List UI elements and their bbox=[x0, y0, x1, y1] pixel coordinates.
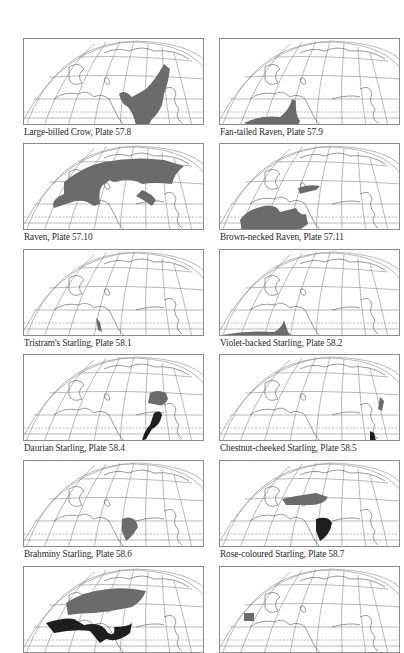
map-caption: Brown-necked Raven, Plate 57.11 bbox=[220, 232, 344, 242]
range-holarctic-eurasia bbox=[53, 158, 184, 208]
range-map bbox=[219, 354, 400, 441]
range-map bbox=[23, 354, 204, 441]
range-map bbox=[23, 566, 204, 653]
range-map bbox=[219, 249, 400, 336]
range-map bbox=[23, 460, 204, 547]
map-caption: Violet-backed Starling, Plate 58.2 bbox=[220, 338, 342, 348]
range-sub-saharan-africa bbox=[220, 320, 292, 336]
globe-graticule-icon bbox=[220, 250, 400, 336]
range-mediterranean-middle-east bbox=[46, 619, 132, 644]
globe-graticule-icon bbox=[24, 144, 204, 230]
globe-graticule-icon bbox=[220, 39, 400, 125]
range-map bbox=[23, 38, 204, 125]
range-indian-subcontinent bbox=[122, 517, 138, 541]
map-caption: Tristram's Starling, Plate 58.1 bbox=[24, 338, 131, 348]
range-north-china-breeding bbox=[148, 391, 168, 405]
range-iberia bbox=[244, 613, 254, 621]
range-map bbox=[23, 249, 204, 336]
range-map bbox=[219, 460, 400, 547]
range-map bbox=[219, 143, 400, 230]
globe-graticule-icon bbox=[24, 355, 204, 441]
globe-graticule-icon bbox=[24, 39, 204, 125]
map-caption: Fan-tailed Raven, Plate 57.9 bbox=[220, 127, 323, 137]
range-map bbox=[219, 38, 400, 125]
range-red-sea-coast bbox=[96, 318, 102, 332]
globe-graticule-icon bbox=[24, 567, 204, 653]
range-sahara-middle-east bbox=[240, 185, 320, 230]
map-caption: Raven, Plate 57.10 bbox=[24, 232, 92, 242]
map-caption: Brahminy Starling, Plate 58.6 bbox=[24, 549, 132, 559]
globe-graticule-icon bbox=[220, 355, 400, 441]
range-southeast-asia-wintering bbox=[142, 411, 162, 441]
range-japan-breeding bbox=[378, 397, 384, 411]
map-caption: Rose-coloured Starling, Plate 58.7 bbox=[220, 549, 344, 559]
globe-graticule-icon bbox=[24, 250, 204, 336]
map-caption: Chestnut-cheeked Starling, Plate 58.5 bbox=[220, 443, 357, 453]
map-caption: Large-billed Crow, Plate 57.8 bbox=[24, 127, 131, 137]
globe-graticule-icon bbox=[220, 144, 400, 230]
globe-graticule-icon bbox=[220, 461, 400, 547]
globe-graticule-icon bbox=[220, 567, 400, 653]
range-map bbox=[23, 143, 204, 230]
range-map bbox=[219, 566, 400, 653]
globe-graticule-icon bbox=[24, 461, 204, 547]
range-india-wintering bbox=[316, 518, 332, 541]
map-caption: Daurian Starling, Plate 58.4 bbox=[24, 443, 125, 453]
